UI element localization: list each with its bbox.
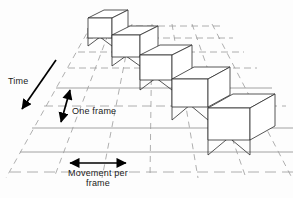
grid-column-line: [6, 24, 92, 178]
box-front-face: [208, 108, 250, 140]
grid-column-line: [54, 24, 112, 178]
movement-per-frame-label: Movement per frame: [55, 168, 141, 188]
frame-box: [208, 94, 275, 155]
frame-boxes: [88, 10, 275, 155]
box-front-face: [112, 35, 140, 57]
one-frame-label: One frame: [72, 106, 116, 116]
figure-root: Time One frame Movement per frame: [0, 0, 293, 198]
time-axis-label: Time: [8, 76, 28, 86]
box-front-face: [172, 79, 208, 107]
box-front-face: [140, 55, 172, 80]
box-front-face: [88, 18, 112, 38]
space-time-grid-diagram: [0, 0, 293, 198]
